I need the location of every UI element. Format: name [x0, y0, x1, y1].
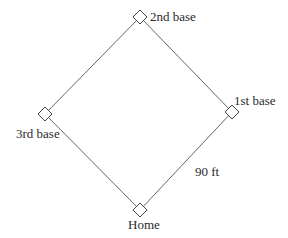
path-second-to-third [45, 17, 140, 114]
third-base-label: 3rd base [16, 126, 60, 141]
second-base-label: 2nd base [150, 9, 196, 24]
baseball-diamond-diagram: 2nd base 1st base 3rd base Home 90 ft [0, 0, 288, 238]
distance-label: 90 ft [195, 164, 220, 179]
path-first-to-second [140, 17, 232, 112]
first-base-label: 1st base [234, 93, 276, 108]
path-home-to-first [140, 112, 232, 210]
base-markers [38, 10, 239, 217]
base-paths [45, 17, 232, 210]
home-label: Home [128, 217, 160, 232]
